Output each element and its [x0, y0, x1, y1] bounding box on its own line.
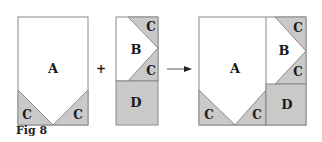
label-c: C	[204, 108, 214, 122]
label-c: C	[146, 20, 156, 34]
label-b: B	[131, 42, 142, 57]
combined-block: A C C B C C D	[199, 17, 306, 125]
label-d: D	[130, 95, 141, 110]
unit-bd-block: B C C D	[116, 17, 158, 125]
label-c: C	[146, 64, 156, 78]
label-a: A	[229, 61, 241, 76]
arrow-right-icon	[167, 66, 192, 72]
label-d: D	[281, 97, 292, 112]
label-c: C	[293, 21, 303, 35]
label-b: B	[279, 43, 290, 58]
label-c: C	[73, 108, 83, 122]
plus-sign: +	[96, 62, 106, 76]
label-c: C	[22, 108, 32, 122]
label-c: C	[252, 108, 262, 122]
unit-a-block: A C C	[18, 17, 88, 125]
label-c: C	[293, 65, 303, 79]
figure-caption: Fig 8	[16, 124, 47, 137]
label-a: A	[47, 61, 59, 76]
